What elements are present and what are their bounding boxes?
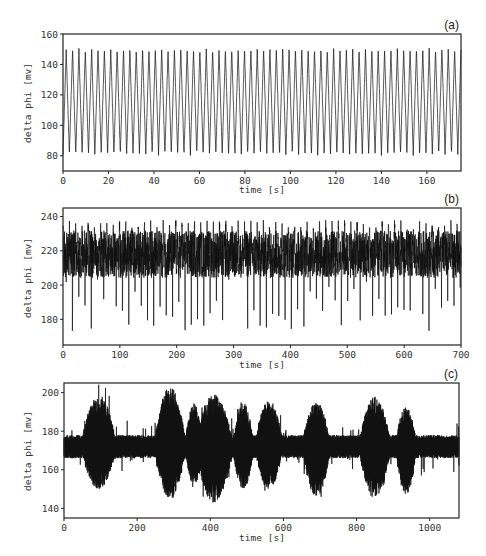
- signal-trace: [63, 220, 461, 331]
- x-axis-title-b: time [s]: [239, 359, 285, 370]
- x-tick-label: 80: [239, 175, 251, 186]
- x-tick-label: 100: [111, 349, 128, 360]
- y-tick-label: 220: [41, 245, 58, 256]
- y-tick-label: 80: [47, 150, 59, 161]
- x-tick-label: 20: [103, 175, 115, 186]
- x-tick-label: 500: [339, 349, 356, 360]
- y-tick-label: 100: [41, 120, 58, 131]
- x-tick-label: 40: [148, 175, 160, 186]
- y-axis-title-c: delta phi [mv]: [22, 411, 33, 491]
- y-tick-label: 160: [41, 29, 58, 40]
- x-tick-label: 600: [275, 522, 292, 533]
- signal-trace: [64, 385, 459, 503]
- plot-area-c: [64, 385, 459, 503]
- panel-c: (c) delta phi [mv] time [s] 140160180200…: [22, 367, 459, 543]
- x-tick-label: 120: [327, 175, 344, 186]
- figure: (a) delta phi [mv] time [s] 801001201401…: [0, 0, 486, 556]
- x-tick-label: 400: [282, 349, 299, 360]
- panel-a: (a) delta phi [mv] time [s] 801001201401…: [22, 18, 461, 195]
- x-tick-label: 600: [396, 349, 413, 360]
- y-axis-title-a: delta phi [mv]: [22, 63, 33, 143]
- x-tick-label: 160: [418, 175, 435, 186]
- y-tick-label: 180: [42, 426, 59, 437]
- x-tick-label: 60: [194, 175, 206, 186]
- y-tick-label: 120: [41, 89, 58, 100]
- x-tick-label: 140: [373, 175, 390, 186]
- panel-b: (b) delta phi [mv] time [s] 180200220240…: [22, 192, 470, 370]
- y-tick-label: 200: [41, 280, 58, 291]
- panel-label-a: (a): [444, 18, 459, 32]
- x-tick-label: 0: [61, 522, 67, 533]
- signal-trace: [63, 48, 461, 155]
- y-tick-label: 160: [42, 464, 59, 475]
- x-tick-label: 300: [225, 349, 242, 360]
- x-tick-label: 0: [60, 349, 66, 360]
- axes-b: 1802002202400100200300400500600700: [41, 208, 470, 360]
- x-tick-label: 1000: [418, 522, 441, 533]
- x-tick-label: 700: [452, 349, 469, 360]
- panel-label-b: (b): [444, 192, 459, 206]
- y-axis-title-b: delta phi [mv]: [22, 238, 33, 318]
- x-tick-label: 400: [202, 522, 219, 533]
- x-axis-title-c: time [s]: [239, 532, 285, 543]
- x-tick-label: 800: [348, 522, 365, 533]
- x-tick-label: 100: [282, 175, 299, 186]
- y-tick-label: 180: [41, 314, 58, 325]
- plot-area-a: [63, 48, 461, 155]
- x-tick-label: 0: [60, 175, 66, 186]
- y-tick-label: 240: [41, 211, 58, 222]
- y-tick-label: 140: [42, 503, 59, 514]
- x-tick-label: 200: [129, 522, 146, 533]
- y-tick-label: 200: [42, 387, 59, 398]
- plot-area-b: [63, 220, 461, 331]
- panel-label-c: (c): [444, 367, 458, 381]
- y-tick-label: 140: [41, 59, 58, 70]
- x-tick-label: 200: [168, 349, 185, 360]
